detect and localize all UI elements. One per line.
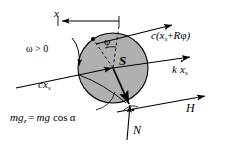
- damper-force-prefix: k: [172, 63, 177, 75]
- displacement-label: x: [54, 8, 59, 19]
- spring-force-prefix: c(: [151, 29, 160, 41]
- free-body-diagram: x ω > 0 φ S c(xs+Rφ) kxs cxs H N mgz=mgc…: [0, 0, 227, 145]
- weight-rhs-main: mg: [37, 111, 50, 123]
- damper-force-sub: s: [185, 69, 188, 76]
- weight-rhs-func: cos: [50, 111, 68, 123]
- right-angle-dot-icon: [132, 109, 135, 112]
- weight-rhs-arg: α: [68, 111, 76, 123]
- angular-velocity-label: ω > 0: [26, 44, 48, 54]
- normal-force-label: N: [133, 124, 141, 136]
- spring-force-suffix: ): [187, 29, 191, 41]
- center-of-mass-label: S: [119, 54, 126, 67]
- radius-endpoint-dot: [91, 37, 95, 41]
- damping-force-sub: s: [48, 84, 51, 91]
- damper-force-label: kxs: [172, 64, 188, 77]
- spring-force-label: c(xs+Rφ): [151, 30, 190, 43]
- damping-force-label: cxs: [38, 79, 51, 92]
- weight-equals: =: [26, 111, 36, 123]
- damper-force-variable: x: [180, 64, 185, 75]
- friction-force-label: H: [186, 102, 195, 114]
- weight-component-label: mgz=mgcosα: [10, 112, 75, 125]
- weight-lhs-main: mg: [10, 111, 23, 123]
- rotation-angle-label: φ: [104, 36, 110, 47]
